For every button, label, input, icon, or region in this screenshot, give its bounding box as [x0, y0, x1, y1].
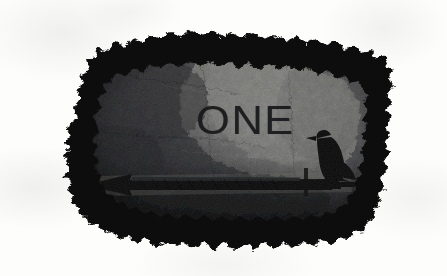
- plaque-svg: [0, 0, 447, 276]
- artwork-canvas: ONE: [0, 0, 447, 276]
- plaque-illustration: ONE: [0, 0, 447, 276]
